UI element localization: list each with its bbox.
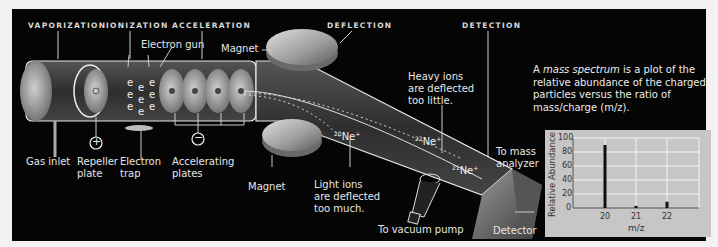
label-magnet-bottom: Magnet — [248, 181, 286, 193]
mass-spectrum-chart: 100 80 60 40 20 0 20 21 22 m/z Relative … — [545, 130, 711, 237]
y-axis-label: Relative Abundance — [547, 132, 557, 217]
label-heavy-line3: too little. — [408, 95, 453, 107]
heading-ionization: IONIZATION — [106, 21, 168, 30]
ytick: 60 — [562, 161, 572, 170]
ytick: 80 — [562, 147, 572, 156]
label-magnet-top: Magnet — [221, 43, 259, 55]
ytick: 0 — [566, 203, 571, 212]
xtick: 22 — [662, 212, 672, 221]
bar-mz-22 — [666, 202, 669, 208]
mass-spectrometer-diagram: VAPORIZATION IONIZATION ACCELERATION DEF… — [12, 9, 706, 241]
repeller-plate — [84, 69, 108, 113]
ion-symbol: Ne — [460, 165, 474, 176]
minus-sign: − — [194, 132, 203, 144]
heading-deflection: DEFLECTION — [327, 21, 392, 30]
vaporization-chamber — [20, 61, 52, 121]
label-to-vacuum-pump: To vacuum pump — [378, 224, 464, 236]
label-gas-inlet: Gas inlet — [26, 156, 70, 168]
electron: e — [149, 77, 155, 88]
ion-ne22: 22Ne+ — [415, 135, 441, 147]
bar-mz-20 — [604, 145, 607, 208]
heading-detection: DETECTION — [462, 21, 521, 30]
desc-prefix: A — [533, 64, 543, 75]
label-light-line2: are deflected — [314, 191, 380, 203]
ion-charge: + — [473, 164, 478, 171]
label-trap-line1: Electron — [120, 156, 161, 168]
ion-symbol: Ne — [423, 136, 437, 147]
electron: e — [127, 101, 133, 112]
electron: e — [149, 101, 155, 112]
label-trap-line2: trap — [120, 168, 141, 180]
electron: e — [127, 89, 133, 100]
label-repeller-line2: plate — [77, 168, 102, 180]
magnet-bottom — [262, 119, 322, 157]
electron: e — [138, 94, 144, 105]
ytick: 40 — [562, 175, 572, 184]
ion-charge: + — [436, 135, 441, 142]
label-light-line1: Light ions — [314, 179, 363, 191]
ion-mass: 22 — [415, 135, 423, 142]
mass-spectrum-description: A mass spectrum is a plot of the relativ… — [533, 64, 708, 114]
electron: e — [138, 82, 144, 93]
ion-ne21: 21Ne+ — [452, 164, 478, 176]
ytick: 100 — [558, 133, 573, 142]
ion-charge: + — [355, 130, 360, 137]
label-mass-line2: analyzer — [496, 158, 539, 170]
heading-acceleration: ACCELERATION — [172, 21, 251, 30]
label-heavy-line2: are deflected — [408, 83, 474, 95]
ytick: 20 — [562, 189, 572, 198]
heading-vaporization: VAPORIZATION — [28, 21, 106, 30]
label-repeller-line1: Repeller — [77, 156, 118, 168]
electron: e — [149, 89, 155, 100]
plus-sign: + — [92, 136, 101, 148]
label-accel-line2: plates — [172, 168, 203, 180]
magnet-top — [266, 29, 338, 71]
label-electron-gun: Electron gun — [141, 39, 204, 51]
label-accel-line1: Accelerating — [172, 156, 234, 168]
label-detector: Detector — [493, 225, 537, 237]
electron: e — [138, 106, 144, 117]
ion-mass: 21 — [452, 164, 460, 171]
label-heavy-line1: Heavy ions — [408, 71, 463, 83]
ion-ne20: 20Ne+ — [334, 130, 360, 142]
label-mass-line1: To mass — [496, 146, 536, 158]
xtick: 21 — [631, 212, 641, 221]
x-axis-label: m/z — [628, 223, 645, 233]
bar-mz-21 — [635, 206, 638, 208]
label-light-line3: too much. — [314, 203, 364, 215]
vacuum-pump — [408, 174, 440, 224]
desc-emphasis: mass spectrum — [543, 64, 620, 75]
ion-symbol: Ne — [342, 131, 356, 142]
electron: e — [127, 77, 133, 88]
xtick: 20 — [600, 212, 610, 221]
ion-mass: 20 — [334, 130, 342, 137]
